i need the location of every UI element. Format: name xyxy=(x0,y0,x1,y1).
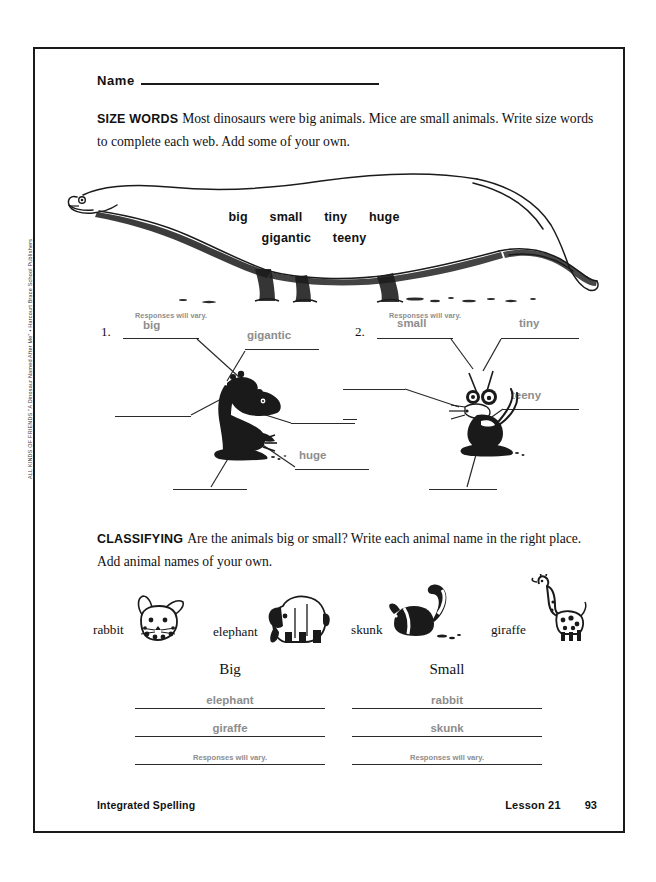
word-bank-word-gigantic: gigantic xyxy=(262,231,312,245)
column-small-rule-3 xyxy=(352,764,542,765)
worksheet-page: ALL KINDS OF FRIENDS "A Dinosaur Named A… xyxy=(33,47,625,833)
word-bank-word-huge: huge xyxy=(369,210,400,224)
column-big-entry-1: elephant xyxy=(135,694,325,706)
footer-title: Integrated Spelling xyxy=(97,799,195,811)
word-bank-word-big: big xyxy=(228,210,247,224)
column-big: Big elephant giraffe Responses will vary… xyxy=(135,661,325,765)
column-small-entry-2: skunk xyxy=(352,722,542,734)
name-label: Name xyxy=(97,73,135,88)
word-bank-word-small: small xyxy=(270,210,303,224)
column-big-slot-3[interactable]: Responses will vary. xyxy=(135,737,325,765)
classifying-section: CLASSIFYING Are the animals big or small… xyxy=(97,527,597,573)
animal-label-giraffe: giraffe xyxy=(491,622,526,638)
column-big-title: Big xyxy=(135,661,325,678)
column-big-slot-2[interactable]: giraffe xyxy=(135,709,325,737)
name-row: Name xyxy=(97,73,379,88)
animal-label-skunk: skunk xyxy=(351,622,383,638)
rabbit-icon xyxy=(127,594,191,642)
animal-label-elephant: elephant xyxy=(213,624,258,640)
footer-lesson: Lesson 21 xyxy=(505,799,561,811)
animal-item-elephant: elephant xyxy=(213,592,331,644)
animal-label-rabbit: rabbit xyxy=(93,622,124,638)
word-bank: big small tiny huge gigantic teeny xyxy=(209,207,419,249)
footer-page-number: 93 xyxy=(585,799,597,811)
column-big-entry-3: Responses will vary. xyxy=(135,753,325,762)
word-bank-row-2: gigantic teeny xyxy=(209,228,419,249)
giraffe-icon xyxy=(529,574,587,642)
footer-right-group: Lesson 21 93 xyxy=(505,795,597,813)
column-small-slot-3[interactable]: Responses will vary. xyxy=(352,737,542,765)
column-small-slot-1[interactable]: rabbit xyxy=(352,681,542,709)
web-1-dinosaur-art xyxy=(197,367,287,467)
word-web-2: Responses will vary. 2. small tiny teeny xyxy=(355,311,610,501)
skunk-icon xyxy=(386,580,464,642)
page-footer: Integrated Spelling Lesson 21 93 xyxy=(97,795,597,813)
classifying-heading: CLASSIFYING xyxy=(97,532,183,546)
elephant-icon xyxy=(261,592,331,644)
column-big-entry-2: giraffe xyxy=(135,722,325,734)
word-bank-word-tiny: tiny xyxy=(324,210,347,224)
size-words-section: SIZE WORDS Most dinosaurs were big anima… xyxy=(97,107,597,153)
size-words-heading: SIZE WORDS xyxy=(97,112,178,126)
animal-item-rabbit: rabbit xyxy=(93,594,191,642)
animal-item-giraffe: giraffe xyxy=(491,574,587,642)
name-write-line[interactable] xyxy=(141,83,379,85)
column-small-entry-1: rabbit xyxy=(352,694,542,706)
word-bank-row-1: big small tiny huge xyxy=(209,207,419,228)
word-web-1: Responses will vary. 1. big gigantic hug… xyxy=(101,311,356,501)
column-small: Small rabbit skunk Responses will vary. xyxy=(352,661,542,765)
column-big-slot-1[interactable]: elephant xyxy=(135,681,325,709)
column-small-entry-3: Responses will vary. xyxy=(352,753,542,762)
web-2-mouse-art xyxy=(447,363,537,463)
word-bank-word-teeny: teeny xyxy=(333,231,367,245)
animal-item-skunk: skunk xyxy=(351,580,464,642)
column-small-title: Small xyxy=(352,661,542,678)
column-small-slot-2[interactable]: skunk xyxy=(352,709,542,737)
dinosaur-banner-illustration: big small tiny huge gigantic teeny xyxy=(59,159,604,304)
copyright-credit-vertical: ALL KINDS OF FRIENDS "A Dinosaur Named A… xyxy=(27,199,33,479)
animal-picture-row: rabbit elephant xyxy=(93,574,593,642)
column-big-rule-3 xyxy=(135,764,325,765)
